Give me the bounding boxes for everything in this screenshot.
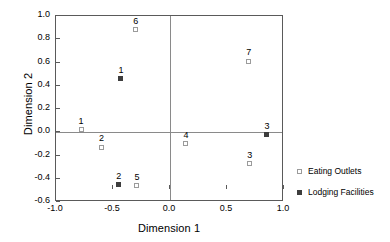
y-axis-tick bbox=[56, 85, 60, 86]
x-axis-tick-label: -0.5 bbox=[92, 203, 132, 213]
x-axis-title: Dimension 1 bbox=[55, 222, 283, 234]
data-point-label: 2 bbox=[90, 133, 114, 143]
data-point-label: 1 bbox=[109, 65, 133, 75]
data-point-marker bbox=[246, 59, 251, 64]
data-point-label: 4 bbox=[174, 130, 198, 140]
data-point-label: 6 bbox=[124, 16, 148, 26]
y-axis-tick bbox=[56, 155, 60, 156]
data-point-label: 3 bbox=[255, 121, 279, 131]
y-axis-title: Dimension 2 bbox=[22, 24, 34, 184]
legend-swatch-icon bbox=[297, 169, 302, 174]
data-point-label: 1 bbox=[69, 116, 93, 126]
y-axis-tick bbox=[56, 108, 60, 109]
chart-legend: Eating OutletsLodging Facilities bbox=[297, 163, 374, 205]
y-axis-tick bbox=[56, 131, 60, 132]
legend-swatch-icon bbox=[297, 190, 302, 195]
x-axis-tick bbox=[112, 185, 113, 189]
data-point-marker bbox=[99, 145, 104, 150]
x-axis-tick-label: 0.0 bbox=[149, 203, 189, 213]
y-axis-tick bbox=[56, 15, 60, 16]
data-point-marker bbox=[79, 127, 84, 132]
data-point-marker bbox=[134, 183, 139, 188]
x-axis-tick bbox=[55, 185, 56, 189]
x-axis-tick bbox=[169, 185, 170, 189]
data-point-label: 2 bbox=[107, 171, 131, 181]
y-axis-tick bbox=[56, 178, 60, 179]
zero-line-vertical bbox=[170, 16, 171, 200]
x-axis-tick-label: 0.5 bbox=[206, 203, 246, 213]
data-point-marker bbox=[118, 76, 123, 81]
y-axis-tick-label: 1.0 bbox=[20, 9, 50, 19]
data-point-marker bbox=[247, 161, 252, 166]
y-axis-tick bbox=[56, 38, 60, 39]
data-point-marker bbox=[264, 132, 269, 137]
y-axis-tick bbox=[56, 62, 60, 63]
data-point-label: 7 bbox=[237, 47, 261, 57]
legend-item-label: Eating Outlets bbox=[308, 166, 361, 176]
data-point-marker bbox=[183, 141, 188, 146]
legend-item[interactable]: Lodging Facilities bbox=[297, 184, 374, 200]
data-point-marker bbox=[116, 182, 121, 187]
data-point-label: 3 bbox=[238, 150, 262, 160]
legend-item-label: Lodging Facilities bbox=[308, 187, 374, 197]
y-axis-tick bbox=[56, 201, 60, 202]
x-axis-tick bbox=[283, 185, 284, 189]
scatter-chart: 1234567123 -1.0-0.50.00.51.0-0.6-0.4-0.2… bbox=[0, 0, 390, 242]
plot-area: 1234567123 bbox=[55, 15, 283, 201]
legend-item[interactable]: Eating Outlets bbox=[297, 163, 374, 179]
x-axis-tick bbox=[226, 185, 227, 189]
data-point-marker bbox=[133, 27, 138, 32]
y-axis-tick-label: -0.6 bbox=[20, 195, 50, 205]
